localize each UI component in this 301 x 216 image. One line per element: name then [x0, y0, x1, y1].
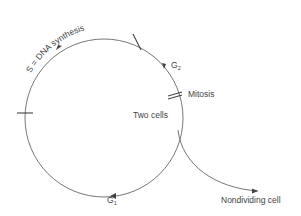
- g2-label: G2: [171, 60, 181, 71]
- s-phase-label: S = DNA synthesis: [24, 23, 86, 75]
- cell-cycle-diagram: S = DNA synthesis G2 Mitosis Two cells G…: [0, 0, 301, 216]
- two-cells-label: Two cells: [133, 110, 168, 120]
- nondividing-branch: [178, 130, 258, 191]
- nondividing-arrowhead-icon: [252, 189, 258, 194]
- s-g2-boundary-tick: [133, 34, 141, 50]
- mitosis-label: Mitosis: [188, 89, 214, 99]
- nondividing-cell-label: Nondividing cell: [221, 195, 281, 205]
